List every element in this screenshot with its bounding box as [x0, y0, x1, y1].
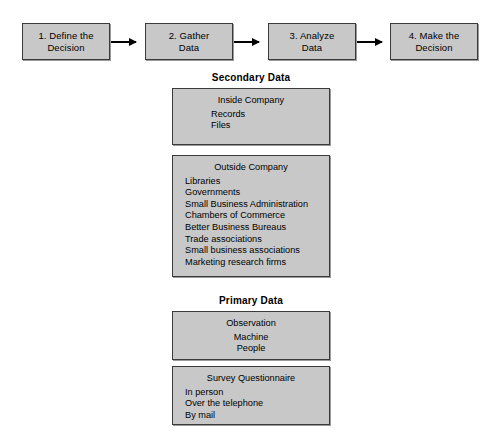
- data-box-outside-company-items: Libraries Governments Small Business Adm…: [173, 176, 329, 269]
- section-title-secondary-data: Secondary Data: [172, 72, 330, 83]
- list-item: Chambers of Commerce: [185, 210, 329, 222]
- data-box-survey-questionnaire-items: In person Over the telephone By mail: [173, 387, 329, 422]
- data-box-observation: Observation Machine People: [172, 311, 330, 360]
- arrow-right-icon-3: [357, 41, 382, 43]
- flow-step-2-text: 2. Gather Data: [169, 30, 210, 53]
- list-item: By mail: [185, 410, 329, 422]
- flow-step-4-text: 4. Make the Decision: [409, 30, 460, 53]
- list-item: Records: [211, 109, 329, 121]
- flow-step-4: 4. Make the Decision: [390, 23, 478, 60]
- flow-step-1-line1: 1. Define the: [38, 30, 93, 42]
- data-box-inside-company-heading: Inside Company: [173, 95, 329, 107]
- flow-step-4-line2: Decision: [409, 42, 460, 54]
- arrow-right-icon-1: [111, 41, 136, 43]
- data-box-survey-questionnaire: Survey Questionnaire In person Over the …: [172, 366, 330, 425]
- flow-step-1: 1. Define the Decision: [22, 23, 110, 60]
- arrow-right-icon-2: [234, 41, 259, 43]
- data-box-survey-questionnaire-heading: Survey Questionnaire: [173, 373, 329, 385]
- flow-step-1-text: 1. Define the Decision: [38, 30, 93, 53]
- flow-step-4-line1: 4. Make the: [409, 30, 460, 42]
- data-box-outside-company-heading: Outside Company: [173, 162, 329, 174]
- data-box-inside-company: Inside Company Records Files: [172, 88, 330, 145]
- flow-step-3: 3. Analyze Data: [268, 23, 356, 60]
- flow-step-2-line2: Data: [169, 42, 210, 54]
- list-item: People: [173, 343, 329, 355]
- flow-step-3-line2: Data: [290, 42, 335, 54]
- section-title-primary-data: Primary Data: [172, 295, 330, 306]
- list-item: Better Business Bureaus: [185, 222, 329, 234]
- list-item: Machine: [173, 332, 329, 344]
- list-item: Small business associations: [185, 245, 329, 257]
- flow-step-3-text: 3. Analyze Data: [290, 30, 335, 53]
- flow-step-3-line1: 3. Analyze: [290, 30, 335, 42]
- list-item: Governments: [185, 187, 329, 199]
- list-item: In person: [185, 387, 329, 399]
- data-box-observation-items: Machine People: [173, 332, 329, 355]
- list-item: Over the telephone: [185, 398, 329, 410]
- list-item: Small Business Administration: [185, 199, 329, 211]
- list-item: Files: [211, 120, 329, 132]
- data-box-observation-heading: Observation: [173, 318, 329, 330]
- list-item: Marketing research firms: [185, 257, 329, 269]
- flow-step-2: 2. Gather Data: [145, 23, 233, 60]
- list-item: Trade associations: [185, 234, 329, 246]
- data-box-outside-company: Outside Company Libraries Governments Sm…: [172, 155, 330, 277]
- flow-step-1-line2: Decision: [38, 42, 93, 54]
- data-box-inside-company-items: Records Files: [173, 109, 329, 132]
- list-item: Libraries: [185, 176, 329, 188]
- flow-step-2-line1: 2. Gather: [169, 30, 210, 42]
